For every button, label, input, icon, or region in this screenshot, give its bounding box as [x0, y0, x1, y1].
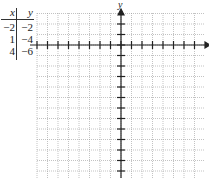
coordinate-grid [0, 0, 209, 178]
y-axis-label: y [118, 0, 122, 10]
